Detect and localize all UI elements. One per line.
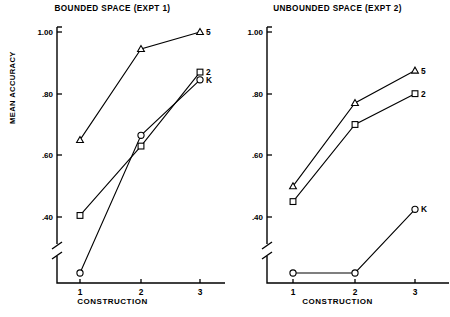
series-label-K: K bbox=[421, 204, 427, 214]
data-series-2: 2 bbox=[77, 67, 211, 218]
data-point-circle bbox=[352, 270, 358, 276]
y-tick-label: .60 bbox=[42, 151, 54, 160]
data-point-square bbox=[352, 122, 358, 128]
x-tick-label: 2 bbox=[353, 287, 358, 297]
data-point-circle bbox=[197, 77, 203, 83]
x-axis-title: CONSTRUCTION bbox=[225, 297, 450, 306]
series-label-K: K bbox=[206, 75, 212, 85]
data-series-K: K bbox=[77, 75, 212, 276]
y-tick-label: .80 bbox=[252, 90, 264, 99]
plot-area-unbounded: 1.00.80.60.4012352K bbox=[225, 0, 450, 317]
panel-unbounded-space: UNBOUNDED SPACE (EXPT 2) 1.00.80.60.4012… bbox=[225, 0, 450, 317]
data-point-square bbox=[138, 143, 144, 149]
x-tick-label: 1 bbox=[291, 287, 296, 297]
data-point-triangle bbox=[352, 100, 359, 106]
y-tick-label: .60 bbox=[252, 151, 264, 160]
series-label-5: 5 bbox=[206, 27, 211, 37]
data-point-circle bbox=[290, 270, 296, 276]
y-tick-label: .40 bbox=[252, 213, 264, 222]
x-axis-title: CONSTRUCTION bbox=[0, 297, 225, 306]
data-point-circle bbox=[77, 270, 83, 276]
data-series-K: K bbox=[290, 204, 427, 276]
data-point-square bbox=[77, 213, 83, 219]
data-point-triangle bbox=[412, 67, 419, 73]
data-point-triangle bbox=[77, 137, 84, 143]
panel-bounded-space: BOUNDED SPACE (EXPT 1) 1.00.80.60.401235… bbox=[0, 0, 225, 317]
data-point-triangle bbox=[197, 29, 204, 35]
x-tick-label: 3 bbox=[198, 287, 203, 297]
x-tick-label: 1 bbox=[78, 287, 83, 297]
y-tick-label: .40 bbox=[42, 213, 54, 222]
data-point-square bbox=[412, 91, 418, 97]
data-point-circle bbox=[138, 132, 144, 138]
data-series-5: 5 bbox=[77, 27, 211, 142]
data-point-square bbox=[197, 69, 203, 75]
data-series-2: 2 bbox=[290, 89, 426, 205]
x-tick-label: 3 bbox=[413, 287, 418, 297]
y-tick-label: 1.00 bbox=[37, 28, 53, 37]
x-tick-label: 2 bbox=[139, 287, 144, 297]
figure-container: MEAN ACCURACY BOUNDED SPACE (EXPT 1) 1.0… bbox=[0, 0, 450, 317]
data-point-square bbox=[290, 199, 296, 205]
plot-area-bounded: 1.00.80.60.4012352K bbox=[0, 0, 225, 317]
data-point-circle bbox=[412, 206, 418, 212]
y-tick-label: 1.00 bbox=[247, 28, 263, 37]
series-label-5: 5 bbox=[421, 66, 426, 76]
series-label-2: 2 bbox=[421, 89, 426, 99]
y-tick-label: .80 bbox=[42, 90, 54, 99]
